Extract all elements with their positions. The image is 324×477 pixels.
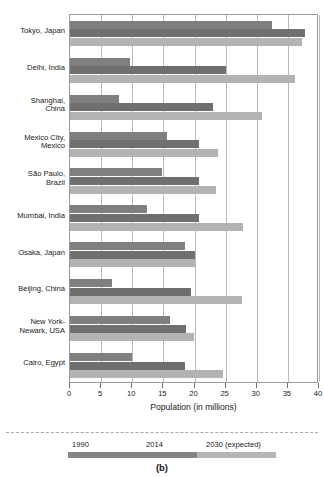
bar bbox=[70, 112, 262, 120]
legend-segment-late bbox=[197, 452, 276, 458]
x-tick bbox=[100, 383, 101, 388]
x-tick-label: 25 bbox=[210, 389, 240, 398]
legend-label-2014: 2014 bbox=[146, 440, 163, 449]
bar bbox=[70, 353, 132, 361]
bar-group bbox=[70, 205, 317, 230]
category-label: Mexico City, Mexico bbox=[0, 134, 65, 151]
legend-gradient-bar bbox=[68, 452, 276, 458]
bar-group bbox=[70, 353, 317, 378]
figure-panel-b: Tokyo, JapanDelhi, IndiaShanghai, ChinaM… bbox=[0, 0, 324, 477]
category-label: Osaka, Japan bbox=[0, 249, 65, 258]
bar-group bbox=[70, 58, 317, 83]
panel-caption: (b) bbox=[0, 462, 324, 473]
bar-group bbox=[70, 316, 317, 341]
bar bbox=[70, 21, 272, 29]
x-tick bbox=[131, 383, 132, 388]
bar bbox=[70, 370, 223, 378]
bar bbox=[70, 333, 194, 341]
legend-labels: 199020142030 (expected) bbox=[56, 440, 288, 451]
x-tick bbox=[69, 383, 70, 388]
bar bbox=[70, 242, 185, 250]
bar bbox=[70, 316, 170, 324]
x-tick-label: 20 bbox=[179, 389, 209, 398]
bar bbox=[70, 132, 167, 140]
bar-groups bbox=[70, 15, 317, 382]
bar bbox=[70, 75, 295, 83]
bar bbox=[70, 288, 191, 296]
category-label: Mumbai, India bbox=[0, 212, 65, 221]
bar bbox=[70, 95, 119, 103]
x-tick bbox=[256, 383, 257, 388]
bar bbox=[70, 29, 305, 37]
x-axis-tick-labels: 0510152025303540 bbox=[0, 389, 324, 401]
category-label: Delhi, India bbox=[0, 64, 65, 73]
bar-group bbox=[70, 242, 317, 267]
x-tick-label: 10 bbox=[116, 389, 146, 398]
bar bbox=[70, 149, 218, 157]
category-label: São Paulo, Brazil bbox=[0, 170, 65, 187]
bar-group bbox=[70, 279, 317, 304]
bar-group bbox=[70, 95, 317, 120]
legend: 199020142030 (expected) bbox=[56, 440, 288, 462]
x-tick-label: 40 bbox=[303, 389, 324, 398]
bar bbox=[70, 186, 216, 194]
x-tick-label: 5 bbox=[85, 389, 115, 398]
bar bbox=[70, 214, 199, 222]
category-label: Beijing, China bbox=[0, 285, 65, 294]
bar bbox=[70, 58, 130, 66]
x-tick bbox=[225, 383, 226, 388]
category-label: New York- Newark, USA bbox=[0, 318, 65, 335]
x-tick-label: 35 bbox=[272, 389, 302, 398]
category-axis-labels: Tokyo, JapanDelhi, IndiaShanghai, ChinaM… bbox=[0, 14, 65, 383]
x-axis-title: Population (in millions) bbox=[69, 402, 318, 412]
x-tick bbox=[194, 383, 195, 388]
legend-label-2030: 2030 (expected) bbox=[206, 440, 261, 449]
bar bbox=[70, 259, 195, 267]
legend-divider bbox=[6, 432, 318, 433]
bar-group bbox=[70, 21, 317, 46]
plot-area bbox=[69, 14, 318, 383]
x-tick bbox=[318, 383, 319, 388]
bar bbox=[70, 205, 147, 213]
bar bbox=[70, 66, 226, 74]
x-axis-ticks bbox=[69, 383, 318, 388]
bar-group bbox=[70, 132, 317, 157]
x-tick bbox=[162, 383, 163, 388]
x-tick-label: 30 bbox=[241, 389, 271, 398]
bar bbox=[70, 177, 199, 185]
bar bbox=[70, 325, 186, 333]
category-label: Tokyo, Japan bbox=[0, 27, 65, 36]
gridline-40 bbox=[319, 15, 320, 382]
bar bbox=[70, 251, 195, 259]
category-label: Shanghai, China bbox=[0, 97, 65, 114]
bar-group bbox=[70, 168, 317, 193]
bar bbox=[70, 38, 302, 46]
legend-label-1990: 1990 bbox=[72, 440, 89, 449]
category-label: Cairo, Egypt bbox=[0, 359, 65, 368]
bar bbox=[70, 362, 185, 370]
bar bbox=[70, 279, 112, 287]
x-tick-label: 0 bbox=[54, 389, 84, 398]
bar bbox=[70, 103, 213, 111]
bar bbox=[70, 140, 199, 148]
legend-segment-early bbox=[68, 452, 197, 458]
x-tick bbox=[287, 383, 288, 388]
bar bbox=[70, 223, 243, 231]
bar bbox=[70, 296, 242, 304]
bar bbox=[70, 168, 162, 176]
x-tick-label: 15 bbox=[147, 389, 177, 398]
